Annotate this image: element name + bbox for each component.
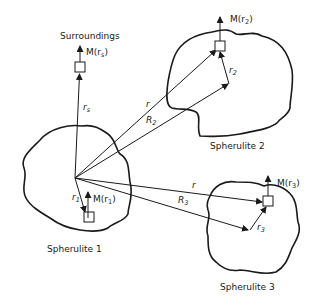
spherulite-2-box: [215, 41, 225, 51]
r1-label: r1: [72, 192, 80, 204]
R2-label: R2: [146, 115, 156, 127]
spherulite-1-moment-label: M(r1): [93, 194, 116, 206]
spherulite-3-moment-label: M(r3): [277, 178, 300, 190]
spherulite-1-box: [84, 212, 94, 222]
r-to-2-label: r: [146, 99, 151, 109]
spherulite-diagram: Surroundings M(rs) rs M(r2) r2 r R2 Sphe…: [0, 0, 318, 305]
vector-R2: [75, 84, 228, 178]
r2-label: r2: [229, 65, 237, 77]
spherulite-3-outline: [207, 182, 299, 274]
vector-r2: [220, 52, 229, 84]
surroundings-box: [75, 62, 85, 72]
surroundings-label: Surroundings: [60, 31, 120, 41]
spherulite-2-moment-label: M(r2): [230, 14, 253, 26]
surroundings-moment-label: M(rs): [86, 47, 108, 59]
R3-label: R3: [178, 195, 188, 207]
vector-r1: [75, 178, 85, 212]
spherulite-2-outline: [167, 30, 293, 137]
vector-R3: [75, 178, 248, 230]
spherulite-3-box: [263, 196, 273, 206]
r-s-label: rs: [83, 102, 91, 114]
spherulite-1-label: Spherulite 1: [47, 244, 102, 254]
spherulite-2-label: Spherulite 2: [210, 141, 265, 151]
r-to-3-label: r: [192, 180, 197, 190]
spherulite-3-label: Spherulite 3: [220, 282, 275, 292]
r3-label: r3: [257, 222, 265, 234]
vector-r-to-spherulite-2: [75, 50, 216, 178]
